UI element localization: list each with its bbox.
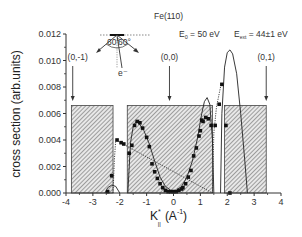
y-tick-label: 0.010 — [38, 56, 61, 66]
beam-label-2: (0,1) — [257, 52, 275, 62]
x-tick-label: 0 — [171, 197, 176, 207]
chart-title: Fe(110) — [154, 11, 183, 21]
angle-right-label: 60° — [118, 37, 131, 47]
y-tick-label: 0.002 — [38, 162, 61, 172]
data-point — [199, 129, 203, 133]
beam-label-1: (0,0) — [161, 52, 179, 62]
data-point — [133, 124, 137, 128]
electron-label: e⁻ — [118, 68, 128, 78]
data-point — [213, 124, 217, 128]
data-point — [145, 136, 149, 140]
cross-section-chart: 0.0000.0020.0040.0060.0080.0100.012 -4-3… — [0, 0, 302, 237]
x-ticks: -4-3-2-101234 — [62, 193, 284, 207]
x-tick-label: -2 — [116, 197, 124, 207]
x-axis-title-sup: * — [158, 208, 161, 215]
x-tick-label: 2 — [225, 197, 230, 207]
x-tick-label: -3 — [89, 197, 97, 207]
data-point — [150, 162, 154, 166]
x-tick-label: 1 — [198, 197, 203, 207]
data-point — [110, 174, 114, 178]
y-ticks: 0.0000.0020.0040.0060.0080.0100.012 — [38, 29, 66, 198]
arrow-down-icon — [167, 96, 171, 101]
data-point — [201, 120, 205, 124]
hatched-region-1 — [127, 106, 212, 193]
x-tick-label: 3 — [252, 197, 257, 207]
x-tick-label: -1 — [143, 197, 151, 207]
data-point — [181, 186, 185, 190]
x-axis-title: K*||(A-1) — [150, 208, 187, 227]
svg-text:K*||(A-1): K*||(A-1) — [150, 208, 187, 227]
y-tick-label: 0.004 — [38, 135, 61, 145]
data-point — [186, 175, 190, 179]
data-point — [156, 177, 160, 181]
data-point — [115, 138, 119, 142]
data-point — [197, 134, 201, 138]
y-tick-label: 0.008 — [38, 82, 61, 92]
hatched-regions — [71, 106, 266, 193]
x-axis-title-close: ) — [183, 209, 187, 223]
x-tick-label: 4 — [278, 197, 283, 207]
data-point — [184, 182, 188, 186]
y-tick-label: 0.012 — [38, 29, 61, 39]
data-point — [217, 102, 221, 106]
data-point — [122, 142, 126, 146]
data-point — [127, 151, 131, 155]
hatched-region-2 — [225, 106, 267, 193]
scattering-geometry-inset: 60° 60° e⁻ — [96, 35, 150, 78]
data-point — [192, 154, 196, 158]
arrow-down-icon — [71, 96, 75, 101]
y-tick-label: 0.006 — [38, 109, 61, 119]
data-point — [153, 170, 157, 174]
data-point — [224, 124, 228, 128]
data-point — [189, 169, 193, 173]
y-tick-label: 0.000 — [38, 188, 61, 198]
data-point — [141, 126, 145, 130]
beam-markers: (0,-1)(0,0)(0,1) — [68, 52, 276, 101]
x-tick-label: -4 — [62, 197, 70, 207]
beam-label-0: (0,-1) — [68, 52, 88, 62]
incident-energy-label: E0 = 50 eV — [179, 29, 220, 40]
data-point — [195, 146, 199, 150]
data-point — [130, 144, 134, 148]
data-point — [220, 83, 224, 87]
data-point — [148, 145, 152, 149]
arrow-down-icon — [264, 96, 268, 101]
x-axis-title-unit: (A — [165, 209, 177, 223]
data-point — [209, 124, 213, 128]
y-axis-title: cross section (arb.units) — [9, 50, 23, 177]
extinction-energy-label: Eext = 44±1 eV — [234, 29, 288, 40]
data-point — [207, 117, 211, 121]
x-axis-title-sub: || — [158, 221, 162, 227]
hatched-region-0 — [71, 106, 113, 193]
data-point — [138, 121, 142, 125]
data-point — [158, 182, 162, 186]
